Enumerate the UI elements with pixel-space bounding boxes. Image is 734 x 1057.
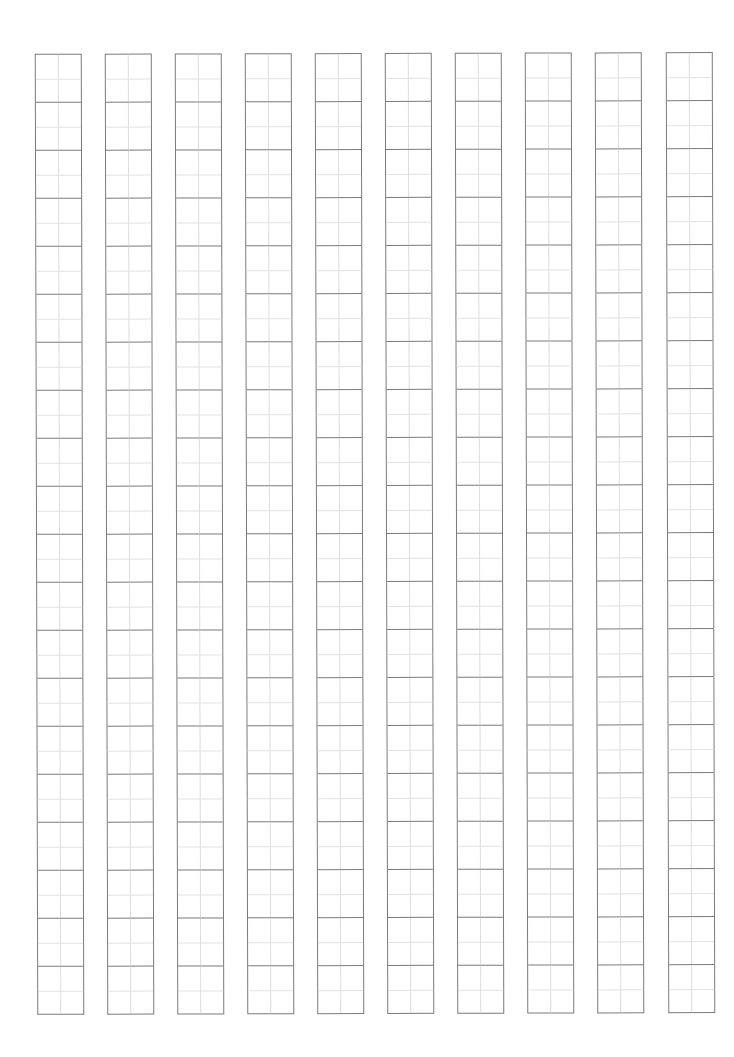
writing-cell [36, 102, 81, 150]
horizontal-guide-line [526, 269, 571, 270]
grid-column-6 [385, 53, 435, 1014]
horizontal-guide-line [388, 750, 433, 751]
horizontal-guide-line [388, 798, 433, 799]
writing-cell [178, 965, 223, 1013]
horizontal-guide-line [247, 510, 292, 511]
writing-cell [458, 773, 503, 821]
writing-cell [177, 341, 222, 389]
horizontal-guide-line [107, 367, 152, 368]
writing-cell [457, 677, 502, 725]
horizontal-guide-line [106, 223, 151, 224]
writing-cell [598, 820, 643, 868]
writing-cell [667, 292, 712, 340]
horizontal-guide-line [387, 606, 432, 607]
horizontal-guide-line [668, 413, 713, 414]
horizontal-guide-line [387, 510, 432, 511]
horizontal-guide-line [177, 654, 222, 655]
writing-cell [317, 437, 362, 485]
horizontal-guide-line [458, 846, 503, 847]
horizontal-guide-line [527, 413, 572, 414]
writing-cell [458, 917, 503, 965]
horizontal-guide-line [108, 799, 153, 800]
writing-cell [528, 724, 573, 772]
horizontal-guide-line [177, 366, 222, 367]
writing-cell [108, 726, 153, 774]
horizontal-guide-line [457, 414, 502, 415]
writing-cell [386, 149, 431, 197]
horizontal-guide-line [597, 701, 642, 702]
horizontal-guide-line [108, 943, 153, 944]
horizontal-guide-line [317, 414, 362, 415]
writing-cell [177, 581, 222, 629]
horizontal-guide-line [596, 77, 641, 78]
grid-column-10 [666, 52, 716, 1013]
writing-cell [107, 342, 152, 390]
horizontal-guide-line [528, 749, 573, 750]
writing-cell [388, 821, 433, 869]
writing-cell [527, 628, 572, 676]
writing-cell [668, 676, 713, 724]
writing-cell [386, 54, 431, 102]
horizontal-guide-line [247, 414, 292, 415]
horizontal-guide-line [456, 174, 501, 175]
horizontal-guide-line [317, 606, 362, 607]
writing-cell [457, 533, 502, 581]
horizontal-guide-line [178, 894, 223, 895]
writing-cell [246, 101, 291, 149]
horizontal-guide-line [458, 750, 503, 751]
horizontal-guide-line [597, 461, 642, 462]
horizontal-guide-line [247, 366, 292, 367]
grid-column-7 [455, 53, 505, 1014]
writing-cell [316, 149, 361, 197]
writing-cell [37, 438, 82, 486]
writing-cell [317, 677, 362, 725]
horizontal-guide-line [107, 607, 152, 608]
horizontal-guide-line [386, 270, 431, 271]
writing-cell [176, 245, 221, 293]
writing-cell [458, 965, 503, 1013]
writing-cell [37, 390, 82, 438]
writing-cell [456, 54, 501, 102]
horizontal-guide-line [597, 557, 642, 558]
writing-cell [387, 437, 432, 485]
writing-cell [247, 533, 292, 581]
horizontal-guide-line [318, 942, 363, 943]
horizontal-guide-line [667, 221, 712, 222]
writing-cell [248, 821, 293, 869]
horizontal-guide-line [387, 462, 432, 463]
writing-cell [668, 484, 713, 532]
writing-cell [248, 965, 293, 1013]
writing-cell [177, 533, 222, 581]
horizontal-guide-line [107, 703, 152, 704]
horizontal-guide-line [667, 317, 712, 318]
writing-cell [597, 484, 642, 532]
horizontal-guide-line [388, 990, 433, 991]
horizontal-guide-line [667, 173, 712, 174]
horizontal-guide-line [598, 845, 643, 846]
horizontal-guide-line [316, 270, 361, 271]
writing-cell [106, 198, 151, 246]
writing-cell [36, 198, 81, 246]
horizontal-guide-line [387, 702, 432, 703]
horizontal-guide-line [667, 269, 712, 270]
horizontal-guide-line [527, 557, 572, 558]
writing-cell [247, 341, 292, 389]
horizontal-guide-line [318, 990, 363, 991]
horizontal-guide-line [246, 222, 291, 223]
writing-cell [37, 582, 82, 630]
horizontal-guide-line [178, 750, 223, 751]
horizontal-guide-line [178, 798, 223, 799]
horizontal-guide-line [386, 78, 431, 79]
writing-cell [37, 342, 82, 390]
horizontal-guide-line [388, 894, 433, 895]
writing-cell [388, 965, 433, 1013]
horizontal-guide-line [37, 559, 82, 560]
writing-cell [528, 772, 573, 820]
horizontal-guide-line [597, 653, 642, 654]
writing-cell [246, 293, 291, 341]
practice-sheet [0, 0, 734, 1057]
writing-cell [247, 485, 292, 533]
horizontal-guide-line [596, 269, 641, 270]
horizontal-guide-line [36, 79, 81, 80]
horizontal-guide-line [38, 895, 83, 896]
